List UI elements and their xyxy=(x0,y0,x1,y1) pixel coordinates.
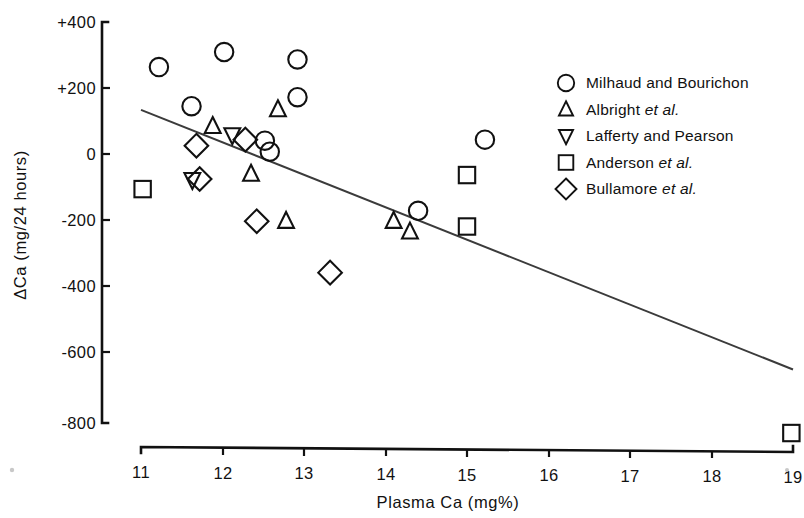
x-tick-label-0: 11 xyxy=(132,463,150,481)
regression-line xyxy=(141,110,793,370)
legend-label: Milhaud and Bourichon xyxy=(586,74,749,91)
data-point-diamond xyxy=(185,134,209,158)
data-point-circle xyxy=(261,142,279,160)
data-markers-group xyxy=(134,43,799,441)
x-tick-label-6: 17 xyxy=(620,467,639,485)
page-speck xyxy=(10,468,14,472)
y-tick-label-5: -600 xyxy=(61,343,96,361)
y-tick-label-6: -800 xyxy=(61,414,96,432)
legend-item: Albright et al. xyxy=(559,101,680,118)
data-point-triangle-up xyxy=(386,212,402,228)
y-tick-label-2: 0 xyxy=(86,145,96,163)
y-axis-line xyxy=(102,22,108,423)
data-point-diamond xyxy=(245,209,269,233)
data-point-circle xyxy=(409,202,427,220)
x-tick-label-3: 14 xyxy=(376,465,395,483)
data-point-circle xyxy=(288,88,306,106)
x-axis-ticks xyxy=(223,448,712,458)
x-tick-label-7: 18 xyxy=(702,467,721,485)
data-point-circle xyxy=(150,58,168,76)
legend-item: Anderson et al. xyxy=(559,154,694,171)
y-tick-label-0: +400 xyxy=(57,13,96,31)
page-speck xyxy=(785,468,789,472)
data-point-circle xyxy=(288,50,306,68)
legend-item: Milhaud and Bourichon xyxy=(558,74,749,91)
data-point-triangle-up xyxy=(270,100,286,116)
y-tick-label-4: -400 xyxy=(61,277,96,295)
y-tick-label-1: +200 xyxy=(57,79,96,97)
x-tick-label-4: 15 xyxy=(457,466,476,484)
legend-marker-diamond xyxy=(556,179,577,200)
x-tick-label-1: 12 xyxy=(213,464,232,482)
series-circle xyxy=(150,43,494,220)
data-point-circle xyxy=(476,130,494,148)
y-axis-title: ΔCa (mg/24 hours) xyxy=(11,150,29,300)
scatter-plot-svg: +400 +200 0 -200 -400 -600 -800 ΔCa (mg/… xyxy=(0,0,804,518)
x-tick-label-5: 16 xyxy=(539,466,558,484)
data-point-square xyxy=(783,425,799,441)
legend-marker-circle xyxy=(558,75,574,91)
data-point-diamond xyxy=(318,261,342,285)
x-tick-label-2: 13 xyxy=(294,464,313,482)
legend-item: Bullamore et al. xyxy=(556,179,697,200)
data-point-circle xyxy=(215,43,233,61)
data-point-triangle-up xyxy=(243,165,259,181)
y-axis-tick-labels: +400 +200 0 -200 -400 -600 -800 xyxy=(57,13,96,432)
legend-marker-triangle-up xyxy=(559,101,573,115)
series-square xyxy=(134,167,799,441)
legend-label: Bullamore et al. xyxy=(586,180,697,197)
y-axis: +400 +200 0 -200 -400 -600 -800 ΔCa (mg/… xyxy=(11,13,110,432)
data-point-circle xyxy=(256,131,274,149)
data-point-triangle-up xyxy=(278,212,294,228)
x-axis: 11 12 13 14 15 16 17 18 19 Plasma Ca (mg… xyxy=(132,446,803,511)
legend-marker-square xyxy=(559,155,574,170)
x-axis-tick-labels: 11 12 13 14 15 16 17 18 19 xyxy=(132,463,803,486)
legend-label: Albright et al. xyxy=(586,101,679,118)
data-point-triangle-up xyxy=(205,117,221,133)
data-point-square xyxy=(134,181,150,197)
legend-item: Lafferty and Pearson xyxy=(559,127,734,144)
y-tick-label-3: -200 xyxy=(61,211,96,229)
legend-label: Lafferty and Pearson xyxy=(586,127,734,144)
data-point-triangle-up xyxy=(402,223,418,239)
legend-marker-triangle-down xyxy=(559,130,573,144)
x-axis-title: Plasma Ca (mg%) xyxy=(377,493,520,511)
chart-figure: +400 +200 0 -200 -400 -600 -800 ΔCa (mg/… xyxy=(0,0,804,518)
data-point-square xyxy=(459,167,475,183)
legend: Milhaud and BourichonAlbright et al.Laff… xyxy=(556,74,749,199)
data-point-circle xyxy=(182,97,200,115)
legend-label: Anderson et al. xyxy=(586,154,693,171)
series-diamond xyxy=(185,128,342,285)
series-triangle-up xyxy=(205,100,418,238)
data-point-square xyxy=(459,218,475,234)
